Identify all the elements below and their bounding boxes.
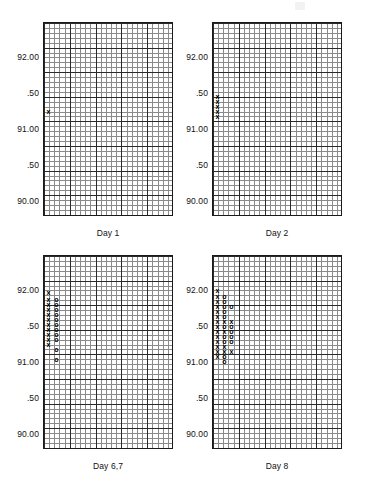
data-marker-o: o — [228, 323, 235, 330]
y-axis-labels-day-1: 92.00 .50 91.00 .50 90.00 — [3, 22, 39, 216]
data-marker-x: x — [214, 108, 221, 115]
data-marker-o: o — [221, 293, 228, 300]
data-marker-o: o — [221, 298, 228, 305]
data-marker-o: o — [53, 356, 60, 363]
data-marker-o: o — [221, 323, 228, 330]
plot-area-day-1: x — [43, 22, 173, 216]
data-marker-o: o — [53, 301, 60, 308]
panel-caption-day-2: Day 2 — [212, 228, 342, 238]
y-tick-label: 92.00 — [186, 53, 208, 62]
data-marker-o: o — [53, 316, 60, 323]
data-marker-o: o — [53, 326, 60, 333]
y-tick-label: 91.00 — [186, 358, 208, 367]
data-marker-o: o — [221, 313, 228, 320]
data-marker-x: x — [214, 303, 221, 310]
data-marker-x: x — [221, 328, 228, 335]
data-marker-x: x — [214, 348, 221, 355]
data-marker-x: x — [214, 318, 221, 325]
y-tick-label: .50 — [27, 322, 39, 331]
panel-caption-day-8: Day 8 — [212, 461, 342, 471]
data-marker-o: o — [53, 346, 60, 353]
y-tick-label: .50 — [196, 322, 208, 331]
panel-caption-day-1: Day 1 — [43, 228, 173, 238]
y-tick-label: 90.00 — [17, 430, 39, 439]
data-marker-o: o — [221, 308, 228, 315]
data-marker-x: x — [214, 343, 221, 350]
data-marker-x: x — [214, 323, 221, 330]
scan-artifact — [295, 2, 305, 10]
data-marker-x: x — [221, 318, 228, 325]
data-marker-o: o — [53, 336, 60, 343]
data-marker-x: x — [214, 353, 221, 360]
grid-day-8 — [213, 256, 341, 448]
grid-day-1 — [44, 23, 172, 215]
data-marker-x: x — [45, 326, 52, 333]
data-marker-o: o — [53, 306, 60, 313]
y-tick-label: 92.00 — [186, 286, 208, 295]
data-marker-x: x — [45, 296, 52, 303]
data-marker-x: x — [228, 318, 235, 325]
y-tick-label: 92.00 — [17, 286, 39, 295]
data-marker-x: x — [221, 348, 228, 355]
y-tick-label: .50 — [27, 89, 39, 98]
data-marker-x: x — [214, 298, 221, 305]
data-marker-o: o — [228, 303, 235, 310]
y-tick-label: 90.00 — [17, 197, 39, 206]
panel-day-2: x x x x x 92.00 .50 91.00 .50 90.00 Day … — [212, 22, 342, 238]
data-marker-o: o — [53, 311, 60, 318]
data-marker-o: o — [228, 338, 235, 345]
y-tick-label: 92.00 — [17, 53, 39, 62]
data-marker-o: o — [228, 328, 235, 335]
panel-day-6-7: x x x x x x x x x x x o o o o o o o o o … — [43, 255, 173, 471]
data-marker-x: x — [214, 313, 221, 320]
data-marker-x: x — [45, 311, 52, 318]
panel-day-8: x x x x x x x x x x x x x x o o o o o x … — [212, 255, 342, 471]
y-tick-label: .50 — [196, 161, 208, 170]
data-marker-x: x — [221, 343, 228, 350]
y-tick-label: .50 — [196, 89, 208, 98]
y-tick-label: .50 — [27, 161, 39, 170]
y-tick-label: 90.00 — [186, 197, 208, 206]
data-marker-o: o — [221, 303, 228, 310]
data-marker-x: x — [214, 338, 221, 345]
y-tick-label: .50 — [196, 394, 208, 403]
scatter-chart-figure: x 92.00 .50 91.00 .50 90.00 Day 1 x x x … — [0, 0, 366, 490]
data-marker-x: x — [45, 331, 52, 338]
y-tick-label: 91.00 — [17, 358, 39, 367]
data-marker-x: x — [45, 108, 52, 115]
data-marker-x: x — [45, 301, 52, 308]
data-marker-o: o — [53, 331, 60, 338]
y-axis-labels-day-2: 92.00 .50 91.00 .50 90.00 — [172, 22, 208, 216]
data-marker-x: x — [214, 98, 221, 105]
data-marker-o: o — [228, 333, 235, 340]
data-marker-x: x — [45, 321, 52, 328]
data-marker-x: x — [45, 306, 52, 313]
data-marker-x: x — [214, 328, 221, 335]
data-marker-o: o — [53, 296, 60, 303]
y-tick-label: 91.00 — [17, 125, 39, 134]
data-marker-o: o — [221, 338, 228, 345]
y-axis-labels-day-8: 92.00 .50 91.00 .50 90.00 — [172, 255, 208, 449]
y-tick-label: 90.00 — [186, 430, 208, 439]
y-tick-label: .50 — [27, 394, 39, 403]
data-marker-x: x — [214, 93, 221, 100]
data-marker-x: x — [228, 348, 235, 355]
data-marker-x: x — [214, 333, 221, 340]
data-marker-x: x — [214, 287, 221, 294]
data-marker-x: x — [45, 341, 52, 348]
data-marker-o: o — [53, 321, 60, 328]
data-marker-x: x — [214, 308, 221, 315]
data-marker-o: o — [221, 333, 228, 340]
data-marker-o: o — [221, 353, 228, 360]
data-marker-x: x — [45, 316, 52, 323]
data-marker-x: x — [214, 113, 221, 120]
data-marker-x: x — [214, 293, 221, 300]
y-tick-label: 91.00 — [186, 125, 208, 134]
y-axis-labels-day-6-7: 92.00 .50 91.00 .50 90.00 — [3, 255, 39, 449]
grid-day-2 — [213, 23, 341, 215]
data-marker-x: x — [214, 103, 221, 110]
data-marker-o: o — [221, 358, 228, 365]
panel-caption-day-6-7: Day 6,7 — [43, 461, 173, 471]
plot-area-day-2: x x x x x — [212, 22, 342, 216]
plot-area-day-6-7: x x x x x x x x x x x o o o o o o o o o … — [43, 255, 173, 449]
